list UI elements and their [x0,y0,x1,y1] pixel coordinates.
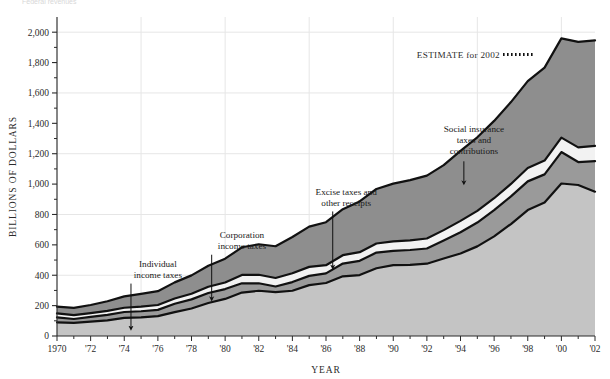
y-tick-label: 200 [35,301,50,311]
y-tick-label: 800 [35,210,50,220]
x-tick-label: '74 [119,344,130,354]
y-tick-label: 1,200 [28,149,50,159]
x-tick-label: 1970 [48,344,67,354]
x-tick-label: '84 [287,344,298,354]
y-tick-label: 0 [44,331,49,341]
annotation-label: taxes and [457,135,492,145]
annotation-label: Excise taxes and [316,187,378,197]
annotation-label: other receipts [321,198,371,208]
x-tick-label: '96 [489,344,500,354]
x-tick-label: '90 [388,344,399,354]
x-tick-label: '02 [589,344,600,354]
x-tick-label: '80 [220,344,231,354]
annotation-label: Social insurance [444,124,504,134]
annotation-label: income taxes [218,241,267,251]
annotation-label: Corporation [220,230,265,240]
y-tick-label: 600 [35,240,50,250]
federal-revenue-stacked-area-chart: 02004006008001,0001,2001,4001,6001,8002,… [0,0,610,379]
x-tick-label: '78 [186,344,197,354]
chart-page: Federal revenues 02004006008001,0001,200… [0,0,610,379]
x-tick-label: '00 [556,344,567,354]
annotation-label: income taxes [134,270,183,280]
y-tick-label: 1,000 [28,179,50,189]
x-tick-label: '92 [421,344,432,354]
x-tick-label: '94 [455,344,466,354]
x-tick-label: '88 [354,344,365,354]
x-tick-label: '82 [253,344,264,354]
y-tick-label: 1,600 [28,88,50,98]
y-tick-label: 1,400 [28,119,50,129]
x-tick-label: '76 [152,344,163,354]
x-tick-label: '72 [85,344,96,354]
y-axis-title: BILLIONS OF DOLLARS [8,116,18,237]
x-tick-label: '86 [320,344,331,354]
x-tick-label: '98 [522,344,533,354]
annotation-label: contributions [450,146,499,156]
x-axis-title: YEAR [311,365,340,375]
estimate-legend-label: ESTIMATE for 2002 [417,50,500,60]
y-tick-label: 1,800 [28,58,50,68]
annotation-label: Individual [139,259,177,269]
y-tick-label: 2,000 [28,28,50,38]
y-tick-label: 400 [35,271,50,281]
